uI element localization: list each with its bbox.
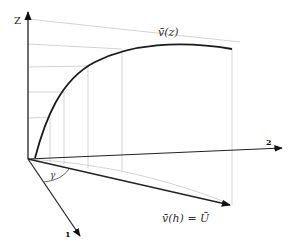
angle-gamma-label: γ [50,170,56,180]
axis-2-label: 2 [266,137,272,147]
z-axis-label: Z [14,15,21,26]
angle-gamma-arc [44,169,69,182]
surface-wind-vector-label: v̄(h) = Ū [162,212,210,225]
wind-profile-diagram: Z 2 1 v̄(h) = Ū γ v̄(z) [0,0,296,251]
surface-wind-vector [28,159,230,205]
velocity-profile-label: v̄(z) [158,26,179,39]
axis-1-label: 1 [65,229,71,239]
axis-2 [28,148,282,159]
velocity-profile-curve [35,44,232,158]
